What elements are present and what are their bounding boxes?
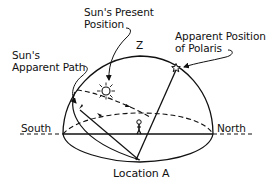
label-polaris-2: of Polaris (175, 43, 222, 54)
sun-position-leader (109, 28, 131, 80)
label-zenith: Z (136, 40, 143, 51)
observer-to-polaris-line (136, 70, 176, 160)
stick-figure-icon (137, 120, 141, 134)
label-sun-apparent-path-1: Sun's (12, 50, 40, 61)
label-north: North (217, 123, 246, 134)
label-sun-present-position-2: Position (84, 19, 124, 30)
label-location: Location A (113, 168, 170, 179)
label-south: South (21, 123, 51, 134)
celestial-sphere-diagram: Sun's Present Position Sun's Apparent Pa… (0, 0, 275, 184)
label-sun-apparent-path-2: Apparent Path (12, 62, 85, 73)
horizon-ellipse-front (63, 134, 213, 162)
label-sun-present-position-1: Sun's Present (84, 7, 154, 18)
sun-apparent-path-arc (73, 92, 140, 160)
label-polaris-1: Apparent Position (175, 31, 266, 42)
diagram-drawing (0, 0, 275, 184)
sun-icon (97, 83, 115, 100)
